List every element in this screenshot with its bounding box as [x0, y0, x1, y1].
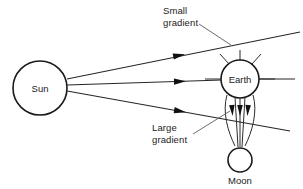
small-gradient-label-line2: gradient	[163, 17, 198, 28]
earth-field-line-lower-right	[245, 95, 255, 146]
arrowhead-gradient-left	[229, 105, 235, 116]
moon-circle	[228, 148, 252, 172]
solar-gradient-diagram: Sun Earth Moon Small gradient Large grad…	[0, 0, 303, 189]
earth-body: Earth	[221, 60, 259, 98]
arrowhead-lower-ray	[174, 107, 187, 115]
earth-field-line-upper-left	[220, 54, 229, 64]
sun-body: Sun	[13, 61, 67, 115]
small-gradient-label-line1: Small	[163, 5, 187, 16]
earth-label: Earth	[229, 74, 252, 85]
earth-field-line-upper-right	[252, 54, 261, 64]
small-gradient-leader-line	[199, 24, 231, 45]
diagram-canvas: Sun Earth Moon Small gradient Large grad…	[0, 0, 303, 189]
sun-ray-middle-left	[67, 80, 222, 85]
arrowhead-gradient-center	[237, 105, 243, 116]
moon-body: Moon	[228, 148, 252, 186]
large-gradient-label-line1: Large	[152, 122, 177, 133]
ray-arrowhead-group	[173, 51, 187, 115]
moon-label: Moon	[228, 175, 252, 186]
gradient-arrow-group	[229, 105, 251, 116]
large-gradient-annotation: Large gradient	[152, 111, 230, 145]
small-gradient-annotation: Small gradient	[163, 5, 231, 45]
arrowhead-gradient-right	[245, 105, 251, 116]
sun-ray-upper	[67, 32, 300, 79]
large-gradient-label-line2: gradient	[152, 134, 187, 145]
arrowhead-middle-ray	[174, 78, 186, 85]
sun-label: Sun	[32, 83, 49, 94]
